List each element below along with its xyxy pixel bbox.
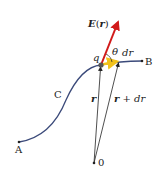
point-b-dot xyxy=(141,60,144,63)
dr-arrow xyxy=(102,62,117,65)
point-a-dot xyxy=(18,141,21,144)
diagram-canvas: E(r) θ dr q B C r r + dr A 0 xyxy=(0,0,166,178)
position-r-plus-dr-label: r + dr xyxy=(114,93,146,104)
point-b-label: B xyxy=(145,56,152,67)
diagram-figure: E(r) θ dr q B C r r + dr A 0 xyxy=(0,0,166,178)
position-r-label: r xyxy=(91,93,97,104)
dr-label: dr xyxy=(122,47,134,58)
origin-dot xyxy=(93,162,96,165)
origin-label: 0 xyxy=(98,157,104,168)
charge-dot xyxy=(98,62,103,67)
field-label: E(r) xyxy=(87,18,109,29)
theta-label: θ xyxy=(112,46,118,57)
charge-label: q xyxy=(93,52,99,63)
point-a-label: A xyxy=(14,144,23,155)
curve-label: C xyxy=(54,89,62,100)
